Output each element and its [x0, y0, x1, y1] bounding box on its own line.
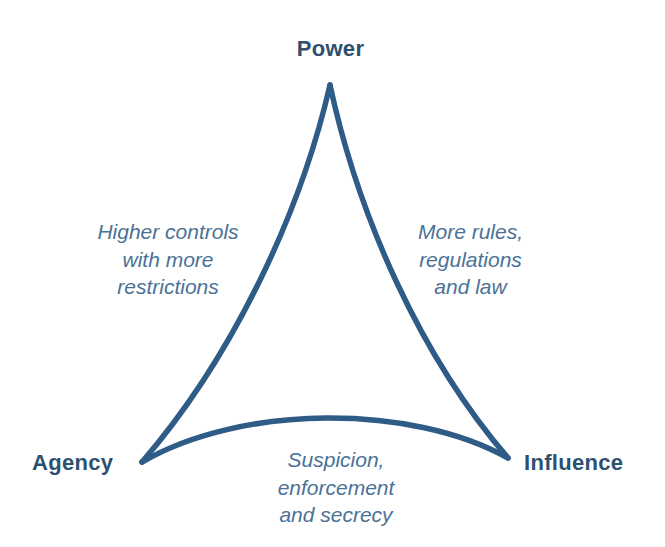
edge-note-right-line-1: More rules, [388, 218, 553, 246]
edge-note-left-line-1: Higher controls [78, 218, 258, 246]
edge-note-bottom-line-1: Suspicion, [238, 446, 434, 474]
vertex-label-power: Power [0, 36, 663, 62]
vertex-label-influence: Influence [524, 450, 623, 476]
edge-note-right-line-3: and law [388, 273, 553, 301]
diagram-canvas: Power Agency Influence Higher controls w… [0, 0, 665, 547]
edge-note-bottom-line-3: and secrecy [238, 501, 434, 529]
edge-note-right: More rules, regulations and law [388, 218, 553, 301]
edge-note-left: Higher controls with more restrictions [78, 218, 258, 301]
edge-note-left-line-2: with more [78, 246, 258, 274]
edge-note-left-line-3: restrictions [78, 273, 258, 301]
vertex-label-agency: Agency [32, 450, 113, 476]
edge-note-bottom: Suspicion, enforcement and secrecy [238, 446, 434, 529]
edge-note-right-line-2: regulations [388, 246, 553, 274]
edge-note-bottom-line-2: enforcement [238, 474, 434, 502]
